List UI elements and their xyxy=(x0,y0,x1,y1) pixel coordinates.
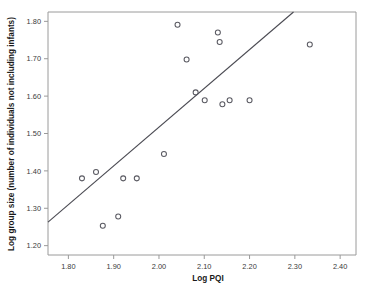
data-point xyxy=(79,176,84,181)
x-axis-ticks: 1.801.902.002.102.202.302.40 xyxy=(61,255,347,271)
data-point xyxy=(121,176,126,181)
y-tick-label: 1.80 xyxy=(27,17,41,26)
y-axis-label: Log group size (number of individuals no… xyxy=(7,17,16,251)
x-tick-label: 2.20 xyxy=(242,262,256,271)
data-point xyxy=(116,214,121,219)
data-point xyxy=(175,22,180,27)
data-point xyxy=(227,98,232,103)
x-tick-label: 2.30 xyxy=(288,262,302,271)
x-tick-label: 1.80 xyxy=(61,262,75,271)
data-points xyxy=(79,22,312,228)
regression-line xyxy=(48,12,293,222)
data-point xyxy=(161,152,166,157)
y-tick-label: 1.60 xyxy=(27,92,41,101)
y-tick-label: 1.40 xyxy=(27,167,41,176)
data-point xyxy=(202,98,207,103)
y-tick-label: 1.20 xyxy=(27,241,41,250)
data-point xyxy=(193,90,198,95)
data-point xyxy=(220,102,225,107)
y-tick-label: 1.70 xyxy=(27,54,41,63)
data-point xyxy=(307,42,312,47)
y-axis-ticks: 1.201.301.401.501.601.701.80 xyxy=(27,17,48,250)
data-point xyxy=(217,39,222,44)
data-point xyxy=(100,223,105,228)
x-tick-label: 2.40 xyxy=(333,262,347,271)
data-point xyxy=(247,98,252,103)
x-axis-label: Log PQI xyxy=(192,274,223,283)
x-tick-label: 2.10 xyxy=(197,262,211,271)
plot-frame xyxy=(48,12,356,255)
data-point xyxy=(94,170,99,175)
scatter-plot-figure: 1.801.902.002.102.202.302.40 1.201.301.4… xyxy=(0,0,368,295)
data-point xyxy=(184,57,189,62)
x-tick-label: 1.90 xyxy=(106,262,120,271)
data-point xyxy=(215,30,220,35)
y-tick-label: 1.50 xyxy=(27,129,41,138)
data-point xyxy=(134,176,139,181)
y-tick-label: 1.30 xyxy=(27,204,41,213)
x-tick-label: 2.00 xyxy=(152,262,166,271)
